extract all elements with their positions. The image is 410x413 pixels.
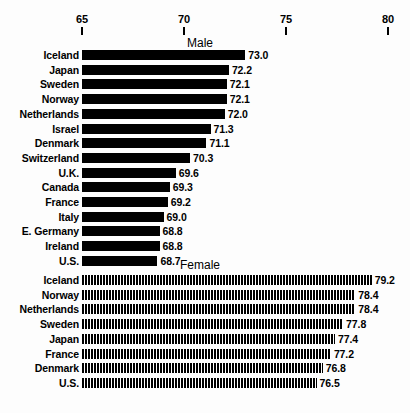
bar-category-label: Italy bbox=[58, 211, 79, 223]
bar-row: Sweden72.1 bbox=[0, 78, 410, 93]
bar-row: E. Germany68.8 bbox=[0, 225, 410, 240]
bar-category-label: France bbox=[45, 348, 79, 360]
bar bbox=[82, 349, 331, 359]
bar-value-label: 68.7 bbox=[160, 255, 180, 267]
bar-value-label: 72.0 bbox=[228, 108, 248, 120]
bar-value-label: 68.8 bbox=[163, 225, 183, 237]
bar-category-label: Switzerland bbox=[22, 152, 79, 164]
bar bbox=[82, 319, 343, 329]
bar-row: Iceland73.0 bbox=[0, 49, 410, 64]
bar-value-label: 70.3 bbox=[193, 152, 213, 164]
bar-category-label: Japan bbox=[49, 333, 79, 345]
bar-row: Netherlands78.4 bbox=[0, 303, 410, 318]
bar-category-label: Ireland bbox=[45, 240, 79, 252]
bar-row: Japan72.2 bbox=[0, 64, 410, 79]
bar bbox=[82, 290, 355, 300]
bar-category-label: Netherlands bbox=[19, 303, 79, 315]
bar bbox=[82, 363, 323, 373]
bar-value-label: 73.0 bbox=[248, 49, 268, 61]
bar bbox=[82, 256, 157, 266]
life-expectancy-bar-chart: 65707580 Male Female Iceland73.0Japan72.… bbox=[0, 0, 410, 413]
bar-category-label: Israel bbox=[52, 123, 79, 135]
bar bbox=[82, 275, 372, 285]
x-axis-tick-label: 70 bbox=[178, 14, 190, 25]
bar bbox=[82, 378, 317, 388]
bar-category-label: Denmark bbox=[35, 137, 79, 149]
bar-category-label: Netherlands bbox=[19, 108, 79, 120]
bar bbox=[82, 65, 229, 75]
bar-row: France77.2 bbox=[0, 348, 410, 363]
bar-value-label: 76.5 bbox=[320, 377, 340, 389]
bar-value-label: 77.8 bbox=[346, 318, 366, 330]
bar-category-label: Canada bbox=[42, 181, 79, 193]
bar bbox=[82, 304, 355, 314]
bar bbox=[82, 79, 227, 89]
bar-row: Switzerland70.3 bbox=[0, 152, 410, 167]
bar-category-label: Norway bbox=[42, 93, 79, 105]
bar-row: U.S.76.5 bbox=[0, 377, 410, 392]
bar-value-label: 69.0 bbox=[167, 211, 187, 223]
x-axis-tick-mark bbox=[387, 27, 389, 35]
bar-category-label: U.S. bbox=[59, 377, 79, 389]
bar-row: Iceland79.2 bbox=[0, 274, 410, 289]
bar-row: Italy69.0 bbox=[0, 211, 410, 226]
bar bbox=[82, 226, 160, 236]
bar-value-label: 72.1 bbox=[230, 93, 250, 105]
bar-value-label: 69.2 bbox=[171, 196, 191, 208]
bar-category-label: Denmark bbox=[35, 362, 79, 374]
bar-value-label: 76.8 bbox=[326, 362, 346, 374]
bar bbox=[82, 50, 245, 60]
bar-category-label: France bbox=[45, 196, 79, 208]
bar-value-label: 77.4 bbox=[338, 333, 358, 345]
bar-category-label: Japan bbox=[49, 64, 79, 76]
bar bbox=[82, 334, 335, 344]
bar bbox=[82, 109, 225, 119]
bar-value-label: 71.3 bbox=[214, 123, 234, 135]
bar-value-label: 71.1 bbox=[209, 137, 229, 149]
bar-row: Norway72.1 bbox=[0, 93, 410, 108]
bar bbox=[82, 124, 211, 134]
bar-category-label: Iceland bbox=[44, 274, 79, 286]
panel-title-male: Male bbox=[140, 36, 260, 50]
bar bbox=[82, 197, 168, 207]
bar-value-label: 78.4 bbox=[358, 289, 378, 301]
bar-value-label: 68.8 bbox=[163, 240, 183, 252]
x-axis-tick-label: 80 bbox=[382, 14, 394, 25]
x-axis-tick-label: 65 bbox=[76, 14, 88, 25]
x-axis-tick-mark bbox=[285, 27, 287, 35]
bar-category-label: Sweden bbox=[40, 78, 79, 90]
x-axis-tick-mark bbox=[81, 27, 83, 35]
bar-row: Ireland68.8 bbox=[0, 240, 410, 255]
bar-row: France69.2 bbox=[0, 196, 410, 211]
bar-row: Canada69.3 bbox=[0, 181, 410, 196]
bar-value-label: 69.6 bbox=[179, 167, 199, 179]
bar-row: Sweden77.8 bbox=[0, 318, 410, 333]
bar-value-label: 72.2 bbox=[232, 64, 252, 76]
bar-value-label: 77.2 bbox=[334, 348, 354, 360]
x-axis-tick-mark bbox=[183, 27, 185, 35]
bar-value-label: 79.2 bbox=[375, 274, 395, 286]
x-axis-tick-label: 75 bbox=[280, 14, 292, 25]
bar-category-label: U.K. bbox=[58, 167, 79, 179]
bar-value-label: 78.4 bbox=[358, 303, 378, 315]
bar-row: Japan77.4 bbox=[0, 333, 410, 348]
bar-category-label: U.S. bbox=[59, 255, 79, 267]
bar-row: U.K.69.6 bbox=[0, 167, 410, 182]
bar-row: Norway78.4 bbox=[0, 289, 410, 304]
bar-row: Israel71.3 bbox=[0, 123, 410, 138]
bar bbox=[82, 153, 190, 163]
bar bbox=[82, 182, 170, 192]
bar-category-label: Sweden bbox=[40, 318, 79, 330]
bar bbox=[82, 168, 176, 178]
bar-row: Denmark76.8 bbox=[0, 362, 410, 377]
bar-category-label: Iceland bbox=[44, 49, 79, 61]
bar bbox=[82, 212, 164, 222]
bar-category-label: Norway bbox=[42, 289, 79, 301]
bar bbox=[82, 241, 160, 251]
bar-row: U.S.68.7 bbox=[0, 255, 410, 270]
bar-value-label: 69.3 bbox=[173, 181, 193, 193]
bar bbox=[82, 94, 227, 104]
bar-value-label: 72.1 bbox=[230, 78, 250, 90]
bar-row: Denmark71.1 bbox=[0, 137, 410, 152]
bar bbox=[82, 138, 206, 148]
